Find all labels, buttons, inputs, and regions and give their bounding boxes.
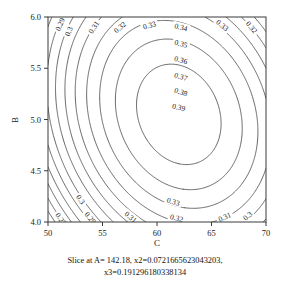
y-axis-tick-label: 4.0: [30, 217, 41, 227]
y-axis-tick-label: 6.0: [30, 12, 41, 22]
x-axis-tick-label: 60: [153, 228, 162, 238]
y-axis-tick-label: 5.5: [30, 63, 41, 73]
x-axis-tick-label: 55: [98, 228, 107, 238]
caption-line-1: Slice at A= 142.18, x2=0.072166562304320…: [67, 256, 222, 265]
x-axis-tick-label: 70: [262, 228, 271, 238]
contour-plot-figure: 0.290.30.310.320.330.340.330.320.350.360…: [0, 0, 290, 292]
x-axis-tick-label: 50: [44, 228, 53, 238]
caption-line-2: x3=0.191296180338134: [104, 268, 187, 277]
y-axis-tick-label: 4.5: [30, 166, 41, 176]
figure-svg: 0.290.30.310.320.330.340.330.320.350.360…: [0, 0, 290, 292]
y-axis-tick-label: 5.0: [30, 115, 41, 125]
y-axis-label: B: [10, 117, 20, 123]
x-axis-label: C: [154, 238, 160, 248]
x-axis-tick-label: 65: [207, 228, 216, 238]
figure-background: [0, 0, 290, 292]
